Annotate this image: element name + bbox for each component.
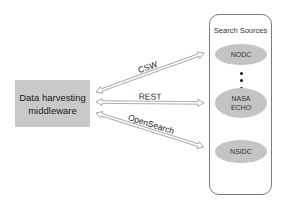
opensearch-arrow: OpenSearch <box>95 103 207 151</box>
nasa-echo-label-line2: ECHO <box>231 103 251 112</box>
diagram-canvas: CSW REST OpenSearch Data harvesting midd… <box>0 0 286 206</box>
ellipsis-dot-1 <box>240 72 243 75</box>
search-sources-title: Search Sources <box>210 26 271 35</box>
nodc-node: NODC <box>215 44 267 65</box>
data-harvesting-middleware-box: Data harvesting middleware <box>15 80 90 127</box>
rest-label: REST <box>139 91 162 101</box>
nasa-echo-node: NASA ECHO <box>215 88 267 118</box>
nodc-label: NODC <box>231 50 252 59</box>
middleware-label-line2: middleware <box>28 104 77 117</box>
csw-arrow: CSW <box>92 43 205 96</box>
rest-arrow: REST <box>96 91 204 106</box>
middleware-label-line1: Data harvesting <box>19 91 86 104</box>
ellipsis-dot-2 <box>240 79 243 82</box>
nsidc-node: NSIDC <box>215 140 267 163</box>
search-sources-container: Search Sources NODC NASA ECHO NSIDC <box>209 14 272 195</box>
nasa-echo-label-line1: NASA <box>231 94 250 103</box>
nsidc-label: NSIDC <box>230 147 252 156</box>
